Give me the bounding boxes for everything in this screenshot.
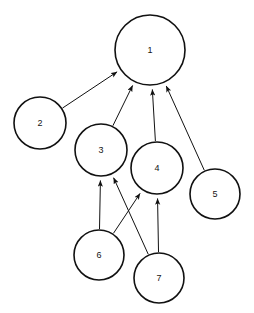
node-label-4: 4 <box>154 163 159 173</box>
edge-6-to-3 <box>100 180 101 229</box>
edge-2-to-1 <box>63 72 118 108</box>
edge-4-to-1 <box>152 89 155 141</box>
node-label-3: 3 <box>98 145 103 155</box>
graph-node-3[interactable]: 3 <box>75 124 127 176</box>
graph-node-4[interactable]: 4 <box>131 142 183 194</box>
graph-node-7[interactable]: 7 <box>134 253 184 303</box>
graph-node-1[interactable]: 1 <box>115 15 185 85</box>
node-label-6: 6 <box>96 250 101 260</box>
graph-node-5[interactable]: 5 <box>190 169 240 219</box>
graph-node-2[interactable]: 2 <box>14 97 66 149</box>
graph-canvas: 1234567 <box>0 0 254 313</box>
graph-diagram: 1234567 <box>0 0 254 313</box>
node-label-2: 2 <box>37 118 42 128</box>
edge-3-to-1 <box>113 85 133 125</box>
edge-7-to-4 <box>158 198 159 252</box>
nodes-layer: 1234567 <box>14 15 240 303</box>
node-label-7: 7 <box>156 273 161 283</box>
graph-node-6[interactable]: 6 <box>74 230 124 280</box>
node-label-5: 5 <box>212 189 217 199</box>
node-label-1: 1 <box>147 45 152 55</box>
